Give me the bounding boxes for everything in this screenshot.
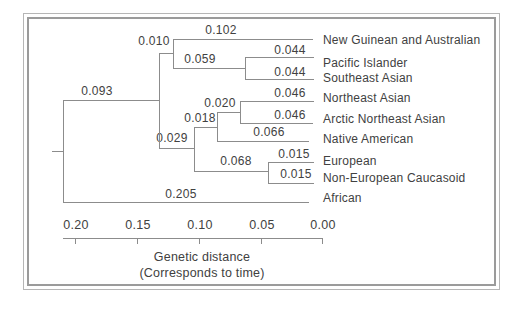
branch-length-label: 0.068: [220, 154, 252, 168]
clade-connector-line: [173, 39, 174, 69]
axis-tick: [137, 238, 138, 244]
branch-length-label: 0.046: [274, 86, 306, 100]
branch-length-label: 0.093: [81, 84, 113, 98]
branch-length-label: 0.044: [274, 43, 306, 57]
branch-length-label: 0.044: [274, 65, 306, 79]
branch-length-label: 0.102: [205, 23, 237, 37]
internal-branch-line: [159, 53, 173, 54]
axis-tick: [199, 238, 200, 244]
internal-branch-line: [217, 112, 240, 113]
branch-length-label: 0.066: [253, 125, 285, 139]
clade-connector-line: [217, 112, 218, 142]
taxon-label: African: [323, 191, 362, 205]
internal-branch-line: [194, 127, 217, 128]
internal-branch-line: [159, 148, 194, 149]
axis-tick-label: 0.05: [249, 218, 275, 232]
taxon-label: Native American: [323, 132, 413, 146]
tip-branch-line: [240, 101, 314, 102]
branch-length-label: 0.010: [138, 34, 170, 48]
taxon-label: Non-European Caucasoid: [323, 171, 466, 185]
axis-tick-label: 0.15: [125, 218, 151, 232]
figure-frame: [23, 13, 500, 290]
tip-branch-line: [268, 183, 314, 184]
axis-line: [63, 238, 323, 239]
taxon-label: Arctic Northeast Asian: [323, 112, 445, 126]
axis-tick-label: 0.00: [310, 218, 336, 232]
branch-length-label: 0.015: [280, 167, 312, 181]
axis-title-line2: (Corresponds to time): [139, 266, 264, 280]
clade-connector-line: [268, 162, 269, 184]
taxon-label: Northeast Asian: [323, 91, 411, 105]
branch-length-label: 0.205: [165, 187, 197, 201]
tip-branch-line: [268, 162, 314, 163]
root-stub-line: [52, 151, 63, 152]
internal-branch-line: [173, 68, 245, 69]
axis-tick-label: 0.10: [187, 218, 213, 232]
clade-connector-line: [159, 53, 160, 149]
branch-length-label: 0.046: [274, 108, 306, 122]
clade-connector-line: [245, 57, 246, 80]
axis-tick: [322, 238, 323, 244]
tip-branch-line: [240, 123, 313, 124]
axis-tick: [261, 238, 262, 244]
taxon-label: New Guinean and Australian: [323, 33, 480, 47]
axis-tick: [75, 238, 76, 244]
taxon-label: Southeast Asian: [323, 71, 413, 85]
figure-canvas: 0.102New Guinean and Australian0.044Paci…: [0, 0, 516, 309]
tip-branch-line: [217, 141, 309, 142]
tip-branch-line: [245, 57, 314, 58]
branch-length-label: 0.020: [204, 96, 236, 110]
clade-connector-line: [240, 101, 241, 124]
axis-title-line1: Genetic distance: [154, 250, 250, 264]
taxon-label: Pacific Islander: [323, 56, 408, 70]
axis-tick-label: 0.20: [63, 218, 89, 232]
branch-length-label: 0.015: [278, 147, 310, 161]
clade-connector-line: [63, 100, 64, 203]
internal-branch-line: [194, 171, 268, 172]
internal-branch-line: [63, 100, 159, 101]
clade-connector-line: [194, 127, 195, 172]
branch-length-label: 0.059: [184, 52, 216, 66]
tip-branch-line: [173, 39, 313, 40]
taxon-label: European: [323, 154, 377, 168]
tip-branch-line: [63, 202, 309, 203]
branch-length-label: 0.029: [156, 131, 188, 145]
branch-length-label: 0.018: [184, 111, 216, 125]
tip-branch-line: [245, 79, 314, 80]
